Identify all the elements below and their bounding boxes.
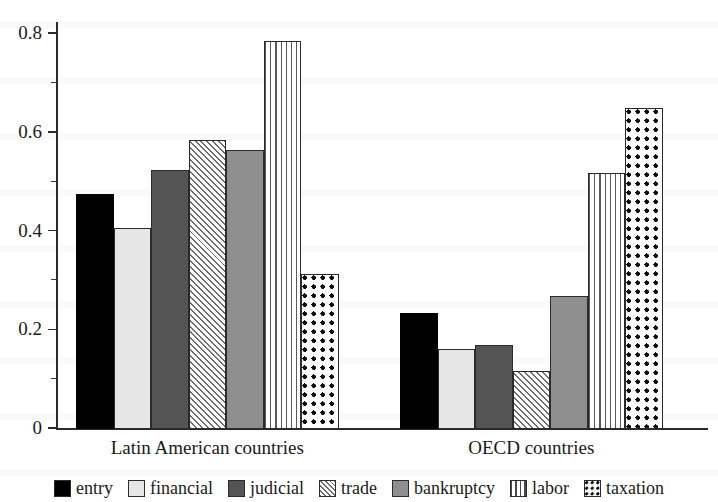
bar-bankruptcy-oecd-countries xyxy=(550,296,588,429)
y-tick-label-0: 0 xyxy=(0,418,42,437)
bar-chart: 00.20.40.60.8 Latin American countries O… xyxy=(0,0,718,502)
legend-swatch-financial-icon xyxy=(128,480,145,497)
bar-labor-oecd-countries xyxy=(588,173,626,429)
bar-entry-latin-american-countries xyxy=(76,194,114,429)
bar-taxation-latin-american-countries xyxy=(301,274,339,429)
plot-area xyxy=(56,20,706,429)
legend-label-judicial: judicial xyxy=(250,478,304,499)
bar-trade-oecd-countries xyxy=(513,371,551,429)
legend-item-financial: financial xyxy=(128,478,213,499)
bar-judicial-latin-american-countries xyxy=(151,170,189,429)
group-label-latin-american-countries: Latin American countries xyxy=(76,438,339,458)
y-tick-label-0.6: 0.6 xyxy=(0,122,42,141)
legend-swatch-labor-icon xyxy=(510,480,527,497)
legend-label-entry: entry xyxy=(76,478,113,499)
bar-financial-oecd-countries xyxy=(438,349,476,429)
legend-item-judicial: judicial xyxy=(228,478,304,499)
legend-swatch-trade-icon xyxy=(319,480,336,497)
legend-item-bankruptcy: bankruptcy xyxy=(392,478,495,499)
legend-item-taxation: taxation xyxy=(584,478,664,499)
legend-label-financial: financial xyxy=(150,478,213,499)
group-label-oecd-countries: OECD countries xyxy=(400,438,663,458)
chart-legend: entryfinancialjudicialtradebankruptcylab… xyxy=(0,476,718,500)
legend-item-labor: labor xyxy=(510,478,569,499)
y-tick-label-0.8: 0.8 xyxy=(0,23,42,42)
bar-taxation-oecd-countries xyxy=(625,108,663,429)
legend-item-entry: entry xyxy=(54,478,113,499)
bar-trade-latin-american-countries xyxy=(189,140,227,429)
y-tick-label-0.4: 0.4 xyxy=(0,221,42,240)
legend-swatch-judicial-icon xyxy=(228,480,245,497)
legend-label-taxation: taxation xyxy=(606,478,664,499)
legend-label-trade: trade xyxy=(341,478,377,499)
legend-swatch-bankruptcy-icon xyxy=(392,480,409,497)
legend-swatch-entry-icon xyxy=(54,480,71,497)
bar-financial-latin-american-countries xyxy=(114,228,152,429)
legend-item-trade: trade xyxy=(319,478,377,499)
legend-label-bankruptcy: bankruptcy xyxy=(414,478,495,499)
legend-swatch-taxation-icon xyxy=(584,480,601,497)
bar-bankruptcy-latin-american-countries xyxy=(226,150,264,429)
bar-labor-latin-american-countries xyxy=(264,41,302,429)
legend-label-labor: labor xyxy=(532,478,569,499)
bar-judicial-oecd-countries xyxy=(475,345,513,429)
y-tick-label-0.2: 0.2 xyxy=(0,319,42,338)
bar-entry-oecd-countries xyxy=(400,313,438,429)
